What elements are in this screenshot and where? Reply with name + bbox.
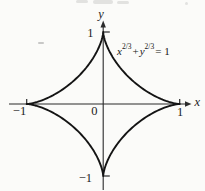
- x-tick-label-pos1: 1: [177, 105, 183, 119]
- y-axis-arrowhead-icon: [101, 21, 106, 28]
- y-tick-label-neg1: −1: [79, 171, 92, 185]
- equation-plus: +: [132, 45, 138, 57]
- origin-label: 0: [91, 104, 97, 118]
- y-tick-label-pos1: 1: [87, 26, 93, 40]
- x-axis-label: x: [194, 95, 201, 109]
- x-tick-label-neg1: −1: [13, 104, 26, 118]
- astroid-figure: y x 1 −1 −1 1 0 x2/3+y2/3= 1: [0, 0, 205, 191]
- equation-exponent-y: 2/3: [145, 42, 155, 51]
- plot-canvas: y x 1 −1 −1 1 0: [0, 0, 205, 191]
- y-axis-label: y: [96, 7, 104, 21]
- equation-var-y: y: [140, 45, 145, 57]
- x-axis-arrowhead-icon: [185, 101, 192, 107]
- equation-exponent-x: 2/3: [122, 42, 132, 51]
- equation-label: x2/3+y2/3= 1: [117, 44, 171, 59]
- equation-equals: = 1: [155, 45, 169, 57]
